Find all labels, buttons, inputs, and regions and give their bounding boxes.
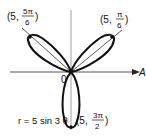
rose-curve-diagram: (5, 5π 6 ) (5, π 6 ) 0 A r = 5 sin 3 θ (… — [0, 0, 146, 136]
svg-text:2: 2 — [95, 122, 100, 131]
label-5pi-6: (5, 5π 6 ) — [7, 7, 38, 27]
svg-text:): ) — [35, 11, 38, 22]
tip-dot-bottom — [69, 125, 73, 129]
svg-text:(5,: (5, — [76, 115, 88, 126]
tip-dot-upper-right — [110, 35, 114, 39]
svg-text:6: 6 — [25, 18, 30, 27]
ray-5pi-6 — [22, 28, 71, 72]
svg-text:3π: 3π — [93, 111, 103, 120]
equation-label: r = 5 sin 3 θ — [18, 115, 68, 126]
tip-dot-upper-left — [28, 35, 32, 39]
svg-text:): ) — [105, 115, 108, 126]
label-3pi-2: (5, 3π 2 ) — [76, 111, 108, 131]
svg-text:5π: 5π — [23, 7, 33, 16]
svg-text:): ) — [125, 14, 128, 25]
svg-text:(5,: (5, — [100, 14, 112, 25]
label-pi-6: (5, π 6 ) — [100, 10, 128, 30]
svg-text:6: 6 — [117, 21, 122, 30]
origin-label: 0 — [61, 74, 67, 85]
svg-text:π: π — [117, 10, 123, 19]
svg-text:(5,: (5, — [7, 11, 19, 22]
axis-label-a: A — [138, 67, 146, 78]
